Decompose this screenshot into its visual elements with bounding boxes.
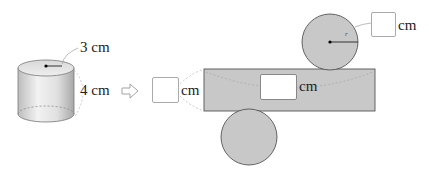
net-bottom-circle — [221, 109, 277, 165]
figure-canvas: r — [0, 0, 429, 179]
hollow-right-arrow-icon — [122, 84, 138, 98]
length-answer-box[interactable] — [260, 74, 297, 100]
radius-answer-box[interactable] — [371, 12, 396, 37]
cylinder-figure — [18, 48, 83, 122]
radius-answer-unit: cm — [398, 18, 416, 33]
height-label: 4 cm — [80, 83, 110, 98]
length-answer-unit: cm — [299, 79, 317, 94]
svg-text:r: r — [345, 30, 348, 38]
height-answer-box[interactable] — [152, 77, 179, 103]
radius-label: 3 cm — [80, 40, 110, 55]
height-answer-unit: cm — [181, 83, 199, 98]
